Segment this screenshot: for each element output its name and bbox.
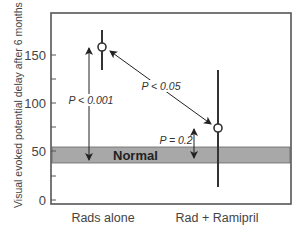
x-category-rads-alone: Rads alone — [71, 211, 134, 225]
y-tick-100: 100 — [24, 96, 46, 111]
data-point-rads-alone — [98, 43, 106, 51]
data-point-rad-ramipril — [214, 124, 222, 132]
x-category-rad-ramipril: Rad + Ramipril — [175, 211, 258, 225]
y-tick-150: 150 — [24, 48, 46, 63]
y-tick-0: 0 — [39, 193, 46, 208]
p-005-label: P < 0.05 — [141, 80, 180, 92]
plot-frame — [51, 13, 291, 204]
normal-band-label: Normal — [113, 148, 158, 163]
p-02-label: P = 0.2 — [159, 134, 192, 146]
normal-band — [52, 147, 290, 163]
p-0001-label: P < 0.001 — [69, 94, 114, 106]
chart-canvas: Normal 0 50 100 150 Visual evoked potent… — [0, 0, 304, 231]
y-axis-label: Visual evoked potential delay after 6 mo… — [12, 2, 24, 208]
y-tick-50: 50 — [32, 144, 46, 159]
